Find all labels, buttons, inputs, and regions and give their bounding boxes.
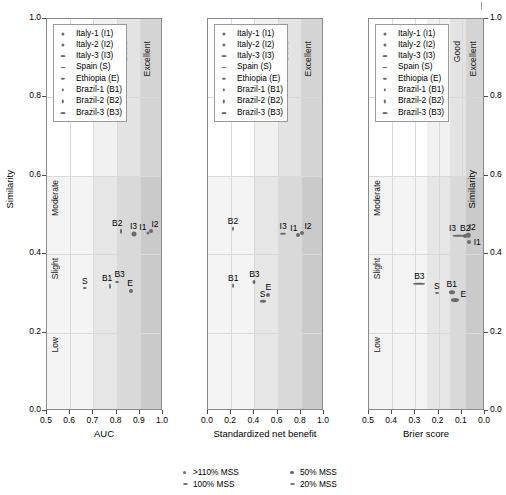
mss-legend-label-1: 100% MSS [193,479,235,489]
mss-legend-marker-1 [183,483,188,485]
data-label-E: E [460,289,466,299]
xtick-label: 0.2 [219,415,241,425]
cohort-legend-1: Italy-1 (I1)Italy-2 (I2)Italy-3 (I3)Spai… [53,24,127,122]
legend-label-E: Ethiopia (E) [398,73,441,83]
frame-corner-tick [481,2,482,10]
legend-marker-I3 [383,55,388,57]
xtick-mark [207,410,208,414]
legend-row-B1: Brazil-1 (B1) [54,84,126,95]
legend-row-B2: Brazil-2 (B2) [376,96,448,107]
gridline-h [208,333,322,334]
data-point-I2 [149,229,153,233]
legend-label-B2: Brazil-2 (B2) [398,95,444,105]
data-point-S [260,300,266,303]
ytick-mark-left [42,332,46,333]
gridline-v [140,19,141,409]
ytick-mark-right [484,96,488,97]
legend-marker-S [222,67,227,69]
data-label-B3: B3 [114,269,124,279]
legend-label-E: Ethiopia (E) [237,73,280,83]
xtick-label: 0.8 [289,415,311,425]
legend-marker-I1 [222,32,225,35]
xtick-label: 0.6 [58,415,80,425]
ytick-label-left: 0.8 [20,90,41,100]
xtick-label: 0.8 [105,415,127,425]
data-point-B1 [232,283,234,288]
legend-marker-I2 [61,43,64,46]
data-point-I3 [131,231,136,236]
zone-label-excellent: Excellent [142,41,152,76]
legend-marker-B2 [62,100,64,103]
data-point-E [266,293,270,297]
legend-label-B1: Brazil-1 (B1) [76,84,122,94]
legend-marker-E [222,78,226,81]
legend-marker-B3 [61,112,66,114]
mss-legend-marker-0 [183,471,186,474]
cohort-legend-3: Italy-1 (I1)Italy-2 (I2)Italy-3 (I3)Spai… [375,24,449,122]
legend-marker-B1 [384,89,386,92]
data-label-I3: I3 [280,221,287,231]
gridline-v [301,19,302,409]
legend-marker-I1 [61,32,64,35]
legend-label-I1: Italy-1 (I1) [237,28,274,38]
gridline-h [208,254,322,255]
xtick-label: 0.5 [357,415,379,425]
data-point-B3 [115,281,119,283]
legend-label-B3: Brazil-3 (B3) [76,107,122,117]
x-axis-title-3: Brier score [368,428,484,439]
data-point-B2 [120,229,122,234]
xtick-mark [277,410,278,414]
legend-label-B2: Brazil-2 (B2) [237,95,283,105]
gridline-h [47,254,161,255]
data-label-B3: B3 [414,271,424,281]
panel-2: AcceptableGoodExcellentI1I2I3SEB1B2B3Ita… [207,18,323,410]
legend-marker-I3 [222,55,227,57]
xtick-label: 0.5 [35,415,57,425]
plot-area-1: AcceptableGoodExcellentLowSlightModerate… [46,18,162,410]
data-label-B2: B2 [112,218,122,228]
legend-row-E: Ethiopia (E) [215,73,287,84]
panel-1: AcceptableGoodExcellentLowSlightModerate… [46,18,162,410]
xtick-mark [300,410,301,414]
legend-marker-B2 [384,100,386,103]
data-label-S: S [82,276,88,286]
data-label-I3: I3 [130,221,137,231]
gridline-h [369,333,483,334]
mss-legend-label-2: 50% MSS [300,467,337,477]
xtick-mark [323,410,324,414]
xtick-mark [368,410,369,414]
xtick-label: 0.0 [196,415,218,425]
legend-marker-S [383,67,388,69]
y-category-moderate: Moderate [50,180,60,216]
ytick-mark-left [42,175,46,176]
mss-legend-label-0: >110% MSS [193,467,239,477]
y-axis-title-right: Similarity [466,170,477,209]
cohort-legend-2: Italy-1 (I1)Italy-2 (I2)Italy-3 (I3)Spai… [214,24,288,122]
data-point-B2 [463,234,467,238]
legend-label-I1: Italy-1 (I1) [76,28,113,38]
legend-marker-E [61,78,65,81]
legend-label-S: Spain (S) [237,61,272,71]
legend-row-B1: Brazil-1 (B1) [215,84,287,95]
legend-row-B3: Brazil-3 (B3) [54,107,126,118]
ytick-mark-right [484,175,488,176]
y-category-moderate: Moderate [372,180,382,216]
xtick-label: 1.0 [151,415,173,425]
legend-row-I3: Italy-3 (I3) [54,51,126,62]
legend-marker-B3 [383,112,388,114]
xtick-mark [139,410,140,414]
ytick-mark-right [484,253,488,254]
y-category-low: Low [372,337,382,353]
xtick-mark [69,410,70,414]
xtick-mark [46,410,47,414]
data-label-B2: B2 [460,223,470,233]
y-category-slight: Slight [372,258,382,279]
xtick-mark [438,410,439,414]
ytick-label-left: 0.6 [20,169,41,179]
legend-label-I2: Italy-2 (I2) [398,39,435,49]
gridline-h [369,254,483,255]
data-point-B2 [232,226,234,231]
xtick-label: 0.4 [242,415,264,425]
legend-row-B3: Brazil-3 (B3) [376,107,448,118]
